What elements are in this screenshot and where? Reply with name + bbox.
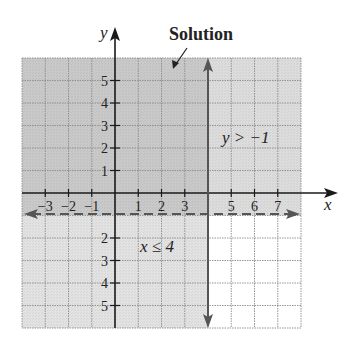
y-tick-label: 2 bbox=[101, 231, 108, 246]
y-tick-label: 2 bbox=[101, 141, 108, 156]
solution-title: Solution bbox=[169, 24, 233, 44]
x-tick-label: 2 bbox=[158, 199, 165, 214]
y-tick-label: 5 bbox=[101, 74, 108, 89]
x-tick-label: 1 bbox=[135, 199, 142, 214]
x-tick-label: −3 bbox=[38, 199, 53, 214]
y-tick-label: 3 bbox=[101, 119, 108, 134]
x-tick-label: −2 bbox=[61, 199, 76, 214]
y-tick-label: 4 bbox=[101, 276, 108, 291]
x-tick-label: 6 bbox=[251, 199, 258, 214]
y-axis-label: y bbox=[98, 23, 108, 42]
y-tick-label: 4 bbox=[101, 96, 108, 111]
y-tick-label: 1 bbox=[101, 164, 108, 179]
inequality-graph: −3−2−1123567543212345 y x Solution y > −… bbox=[0, 0, 349, 342]
x-tick-label: 3 bbox=[181, 199, 188, 214]
y-tick-label: 3 bbox=[101, 254, 108, 269]
x-axis-label: x bbox=[323, 195, 332, 214]
y-tick-label: 5 bbox=[101, 299, 108, 314]
x-tick-label: −1 bbox=[84, 199, 99, 214]
x-tick-label: 5 bbox=[228, 199, 235, 214]
inequality-x-label: x ≤ 4 bbox=[139, 237, 174, 256]
x-tick-label: 7 bbox=[274, 199, 281, 214]
inequality-y-label: y > −1 bbox=[220, 128, 270, 147]
